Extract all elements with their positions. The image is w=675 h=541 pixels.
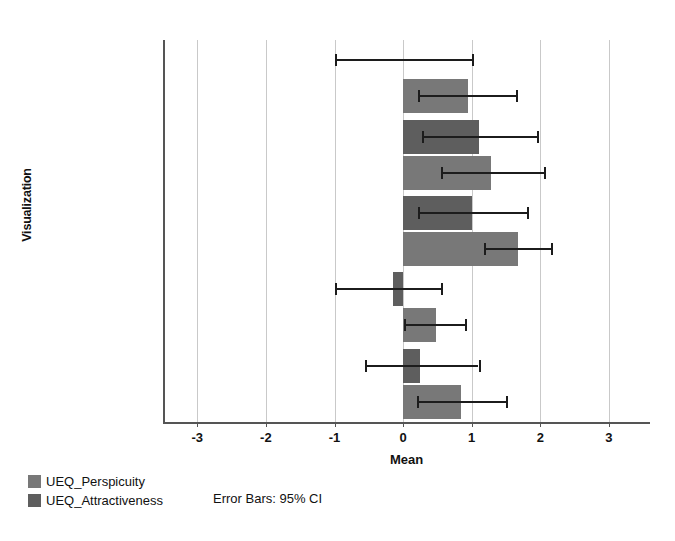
- tick-1: [472, 422, 473, 427]
- x-tick-label: -1: [315, 430, 355, 445]
- gridline-3: [609, 40, 610, 422]
- x-axis-line: [163, 422, 650, 424]
- x-tick-label: -2: [246, 430, 286, 445]
- error-bar-cap: [335, 54, 337, 66]
- y-axis-title: Visualization: [20, 145, 34, 265]
- error-bar-cap: [479, 360, 481, 372]
- error-bar-cap: [544, 167, 546, 179]
- legend-item: UEQ_Attractiveness: [28, 491, 163, 510]
- x-tick-label: 2: [520, 430, 560, 445]
- error-bar-cap: [484, 243, 486, 255]
- x-axis-title: Mean: [163, 452, 650, 467]
- legend-swatch-icon: [28, 494, 41, 507]
- gridline-2: [540, 40, 541, 422]
- error-bar-cap: [527, 207, 529, 219]
- error-bar: [418, 95, 516, 97]
- x-tick-label: 0: [383, 430, 423, 445]
- error-bar-cap: [422, 131, 424, 143]
- error-bar-cap: [506, 396, 508, 408]
- chart-legend: UEQ_PerspicuityUEQ_Attractiveness: [28, 472, 163, 510]
- x-tick-label: 3: [589, 430, 629, 445]
- gridline--1: [335, 40, 336, 422]
- gridline--2: [266, 40, 267, 422]
- tick--2: [266, 422, 267, 427]
- error-bar: [422, 136, 537, 138]
- error-bar-cap: [551, 243, 553, 255]
- error-bar: [417, 401, 506, 403]
- x-tick-label: 1: [452, 430, 492, 445]
- legend-item: UEQ_Perspicuity: [28, 472, 163, 491]
- error-bar-cap: [441, 167, 443, 179]
- legend-swatch-icon: [28, 475, 41, 488]
- error-bar-cap: [472, 54, 474, 66]
- error-bar-cap: [441, 283, 443, 295]
- error-bar-cap: [537, 131, 539, 143]
- plot-area: -3-2-10123 Tube maxBoomerangConventional…: [163, 40, 650, 422]
- x-tick-label: -3: [177, 430, 217, 445]
- legend-label: UEQ_Attractiveness: [46, 491, 163, 510]
- legend-label: UEQ_Perspicuity: [46, 472, 145, 491]
- gridline--3: [197, 40, 198, 422]
- error-bar: [335, 288, 441, 290]
- error-bar-cap: [365, 360, 367, 372]
- tick--3: [197, 422, 198, 427]
- error-bar-cap: [418, 207, 420, 219]
- error-bar-cap: [516, 90, 518, 102]
- chart-figure: Visualization -3-2-10123 Tube maxBoomera…: [0, 0, 675, 541]
- error-bar: [418, 212, 526, 214]
- error-bar-cap: [418, 90, 420, 102]
- tick-3: [609, 422, 610, 427]
- error-bar: [365, 365, 478, 367]
- error-bar-cap: [335, 283, 337, 295]
- error-bar: [404, 324, 464, 326]
- tick--1: [335, 422, 336, 427]
- tick-0: [403, 422, 404, 427]
- error-bar-cap: [417, 396, 419, 408]
- error-bar: [441, 172, 544, 174]
- error-bar: [335, 59, 472, 61]
- error-bar-cap: [404, 319, 406, 331]
- error-bar-cap: [465, 319, 467, 331]
- error-bars-note: Error Bars: 95% CI: [213, 491, 322, 506]
- error-bar: [484, 248, 551, 250]
- y-axis-line: [163, 40, 165, 422]
- tick-2: [540, 422, 541, 427]
